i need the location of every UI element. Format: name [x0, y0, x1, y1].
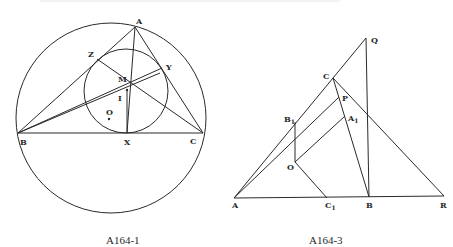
label-b: B [366, 200, 373, 210]
label-c: C [323, 71, 329, 81]
label-m: M [118, 74, 127, 84]
figure-a164-3: Q C P A1 B1 O A C1 B R A164-3 [231, 35, 447, 246]
label-z: Z [88, 49, 94, 59]
segment-zc [97, 59, 203, 133]
segment-aq [234, 38, 366, 198]
segment-oa1 [295, 116, 345, 162]
label-c: C [190, 136, 196, 146]
label-o: O [106, 107, 113, 117]
figure-a164-1: A B C X Y Z M I O A164-1 [16, 16, 206, 246]
label-a1: A1 [347, 113, 358, 124]
geometry-figures: A B C X Y Z M I O A164-1 Q C P A1 B1 O [0, 0, 453, 247]
caption-a164-1: A164-1 [106, 234, 140, 246]
segment-ar [234, 196, 444, 198]
label-y: Y [165, 62, 172, 72]
label-p: P [342, 93, 348, 103]
segment-cr [333, 78, 444, 196]
label-x: X [124, 137, 131, 147]
label-r: R [440, 200, 447, 210]
segment-by [18, 68, 162, 133]
segment-ap [234, 97, 339, 198]
label-i: I [118, 93, 122, 103]
label-b1: B1 [284, 114, 295, 125]
segment-cb [333, 78, 369, 197]
segment-oc1 [295, 162, 327, 198]
caption-a164-3: A164-3 [309, 234, 343, 246]
label-o: O [287, 162, 294, 172]
label-b: B [20, 137, 27, 147]
label-a: A [135, 16, 143, 26]
label-a: A [231, 200, 239, 210]
segment-ax [127, 27, 135, 133]
incenter-i-dot [126, 89, 128, 91]
center-o-dot [108, 118, 110, 120]
label-c1: C1 [325, 200, 336, 211]
triangle-abc [18, 27, 203, 133]
segment-bm [18, 73, 160, 133]
segment-qb [366, 38, 369, 197]
label-q: Q [371, 35, 378, 45]
